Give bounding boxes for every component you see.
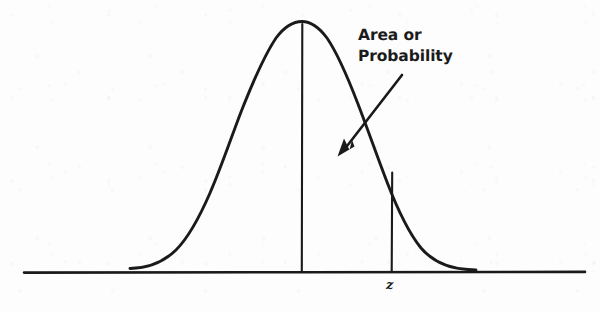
mean-vertical-line xyxy=(302,24,303,272)
callout-label-line-1: Area or xyxy=(358,25,422,46)
callout-arrow-shaft xyxy=(346,75,403,148)
baseline-axis xyxy=(24,272,585,273)
z-vertical-line xyxy=(392,173,393,272)
axis-label-z: z xyxy=(386,277,393,292)
normal-curve-figure xyxy=(0,0,600,312)
callout-arrowhead xyxy=(338,139,355,157)
figure-canvas: Area or Probability z xyxy=(0,0,600,312)
callout-label-line-2: Probability xyxy=(358,46,453,67)
